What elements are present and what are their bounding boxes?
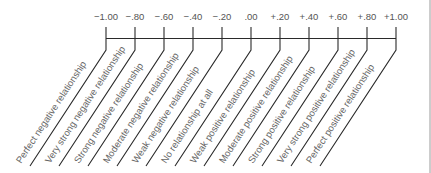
- tick-value-label: −.60: [155, 11, 174, 22]
- tick-description-label: No relationship at all: [158, 87, 214, 165]
- tick-value-label: −1.00: [94, 11, 118, 22]
- tick-value-label: −.20: [213, 11, 232, 22]
- tick-value-label: +.20: [271, 11, 290, 22]
- tick-value-label: +.80: [358, 11, 377, 22]
- tick-value-label: −.80: [126, 11, 145, 22]
- tick-value-label: −.40: [184, 11, 203, 22]
- correlation-scale-diagram: −1.00Perfect negative relationship−.80Ve…: [0, 0, 431, 173]
- tick-value-label: +1.00: [384, 11, 408, 22]
- tick-value-label: +.60: [329, 11, 348, 22]
- tick-value-label: .00: [244, 11, 257, 22]
- tick-value-label: +.40: [300, 11, 319, 22]
- tick-group: −1.00Perfect negative relationship−.80Ve…: [13, 11, 408, 166]
- tick-leader-line: [320, 27, 396, 166]
